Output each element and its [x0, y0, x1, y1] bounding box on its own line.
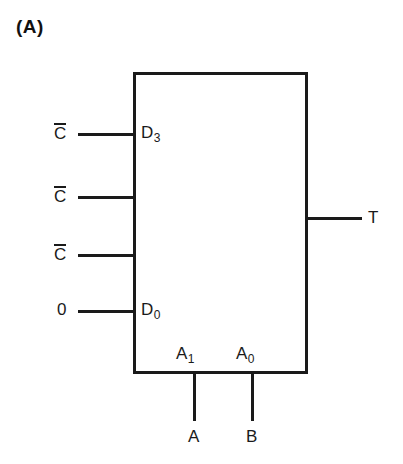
- input-wire-1: [78, 196, 135, 199]
- port-label-d3: D3: [141, 124, 160, 141]
- port-label-a0: A0: [236, 345, 254, 362]
- select-signal-label-a: A: [188, 428, 199, 445]
- port-label-a1: A1: [176, 345, 194, 362]
- input-signal-label-2: C: [54, 245, 66, 263]
- input-wire-0: [78, 133, 135, 136]
- overbar-group-2: C: [54, 245, 66, 263]
- select-wire-a0: [251, 373, 254, 421]
- select-wire-a1: [193, 373, 196, 421]
- input-signal-label-0: C: [54, 124, 66, 142]
- input-signal-label-3: 0: [57, 301, 66, 318]
- multiplexer-body: [133, 72, 308, 374]
- overbar-group-0: C: [54, 124, 66, 142]
- input-wire-3: [78, 310, 135, 313]
- overbar-group-1: C: [54, 187, 66, 205]
- input-signal-label-1: C: [54, 187, 66, 205]
- select-signal-label-b: B: [246, 428, 257, 445]
- figure-canvas: (A) C C C 0 D3 D0 T A1 A0 A B: [0, 0, 403, 464]
- port-label-d0: D0: [141, 301, 160, 318]
- input-wire-2: [78, 254, 135, 257]
- output-wire: [306, 217, 362, 220]
- output-label: T: [368, 209, 378, 226]
- figure-label: (A): [16, 16, 44, 38]
